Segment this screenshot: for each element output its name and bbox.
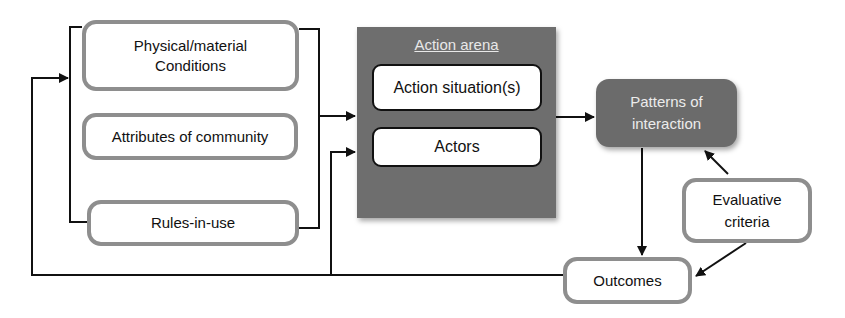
- action-situation-label: Action situation(s): [393, 78, 520, 98]
- patterns-line2: interaction: [630, 113, 703, 135]
- evaluative-line2: criteria: [724, 211, 769, 233]
- patterns-line1: Patterns of: [630, 91, 703, 113]
- evaluative-criteria-box: Evaluative criteria: [682, 178, 812, 243]
- rules-in-use-box: Rules-in-use: [87, 200, 299, 246]
- attributes-community-label: Attributes of community: [112, 127, 269, 147]
- physical-conditions-line1: Physical/material: [134, 36, 247, 56]
- attributes-community-box: Attributes of community: [82, 113, 298, 160]
- outcomes-label: Outcomes: [593, 271, 661, 291]
- action-arena-title: Action arena: [357, 36, 556, 53]
- actors-box: Actors: [372, 127, 542, 167]
- actors-label: Actors: [434, 137, 479, 157]
- evaluative-line1: Evaluative: [712, 189, 781, 211]
- physical-conditions-box: Physical/material Conditions: [82, 20, 299, 91]
- action-arena: Action arena Action situation(s) Actors: [357, 27, 556, 218]
- rules-in-use-label: Rules-in-use: [151, 213, 235, 233]
- action-situation-box: Action situation(s): [372, 64, 542, 111]
- patterns-of-interaction-box: Patterns of interaction: [596, 79, 737, 147]
- outcomes-box: Outcomes: [563, 257, 692, 304]
- physical-conditions-line2: Conditions: [155, 56, 226, 76]
